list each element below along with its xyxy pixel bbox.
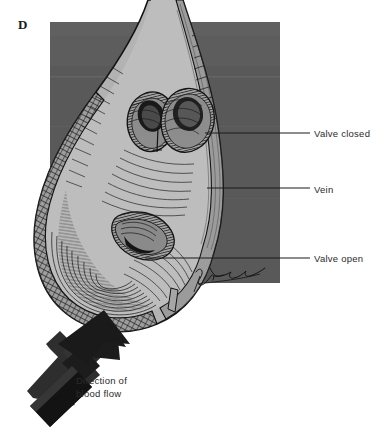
caption-line-1: Direction of <box>76 375 127 388</box>
figure-panel-d: D Valve closed Vein Valve open Direction… <box>0 0 391 429</box>
label-valve-open: Valve open <box>314 253 363 265</box>
caption-line-2: blood flow <box>76 388 127 401</box>
label-vein: Vein <box>314 184 334 196</box>
blood-flow-arrow <box>27 310 130 427</box>
caption-direction-of-blood-flow: Direction of blood flow <box>76 375 127 401</box>
valve-closed-cusps <box>127 88 214 152</box>
panel-letter-d: D <box>18 18 28 31</box>
label-valve-closed: Valve closed <box>314 128 370 140</box>
vein-valve-illustration <box>0 0 391 429</box>
